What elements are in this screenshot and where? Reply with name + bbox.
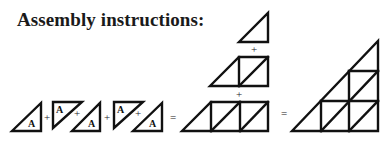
plus-operator: + — [251, 43, 257, 55]
piece-1: A — [12, 103, 41, 131]
piece-label: A — [117, 104, 125, 115]
equals-operator: = — [170, 111, 176, 123]
plus-operator: + — [135, 107, 141, 119]
piece-label: A — [56, 104, 64, 115]
equals-operator: = — [281, 107, 287, 119]
plus-operator: + — [74, 107, 80, 119]
plus-operator: + — [104, 111, 110, 123]
piece-label: A — [28, 118, 36, 129]
assembled-triangle — [292, 41, 378, 131]
stack-row-3 — [182, 102, 268, 131]
piece-label: A — [88, 118, 96, 129]
assembly-diagram: A + A + A + A + A = + + = — [0, 0, 385, 149]
plus-operator: + — [44, 111, 50, 123]
piece-label: A — [149, 118, 157, 129]
stack-row-2 — [210, 57, 268, 86]
plus-operator: + — [236, 88, 242, 100]
stack-row-1 — [239, 13, 268, 42]
